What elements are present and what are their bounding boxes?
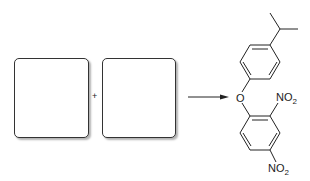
oxygen-label: O [236, 92, 245, 104]
molecule-bonds [240, 13, 298, 162]
reaction-arrow-icon [188, 95, 229, 100]
product-structure: O NO2 NO2 [0, 0, 310, 181]
nitro-label-ortho: NO2 [276, 91, 298, 106]
nitro-label-para: NO2 [268, 162, 290, 177]
